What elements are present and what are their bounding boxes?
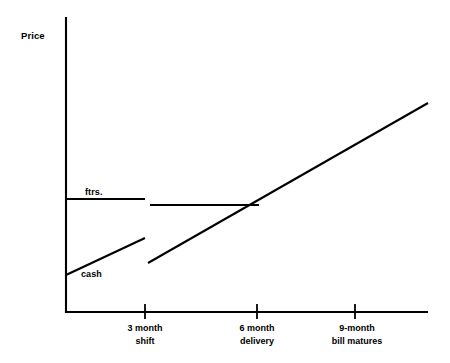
x-tick-label-9-month: 9-month bill matures: [332, 322, 383, 347]
cash-series-label: cash: [81, 268, 102, 280]
cash-line-segment-2: [148, 103, 428, 263]
x-tick-label-6-month-line1: 6 month: [240, 323, 275, 333]
y-axis-label: Price: [21, 30, 45, 42]
x-tick-label-9-month-line1: 9-month: [339, 323, 375, 333]
x-tick-label-6-month-line2: delivery: [240, 335, 275, 348]
futures-series-label: ftrs.: [85, 186, 103, 198]
x-tick-label-6-month: 6 month delivery: [240, 322, 275, 347]
x-tick-label-3-month: 3 month shift: [128, 322, 163, 347]
cash-line-segment-1: [66, 238, 145, 275]
x-tick-label-9-month-line2: bill matures: [332, 335, 383, 348]
x-tick-label-3-month-line1: 3 month: [128, 323, 163, 333]
price-chart-figure: Price ftrs. cash 3 month shift 6 month d…: [0, 0, 450, 363]
x-tick-label-3-month-line2: shift: [128, 335, 163, 348]
chart-plot-area: [0, 0, 450, 363]
